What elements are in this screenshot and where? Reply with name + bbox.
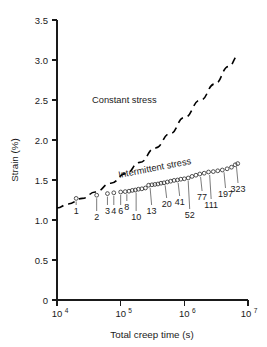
data-point-marker <box>220 168 224 172</box>
y-tick-label-3p5: 3.5 <box>35 15 48 26</box>
data-point-marker <box>207 170 211 174</box>
y-axis-ticks <box>52 20 57 300</box>
x-tick-mantissa-1e4: 10 <box>52 308 63 319</box>
data-point-marker <box>202 171 206 175</box>
constant-stress-curve <box>57 56 238 208</box>
intermittent-stress-label: Intermittent stress <box>117 156 192 180</box>
x-tick-label-1e7: 10 7 <box>241 307 258 320</box>
y-tick-label-0p5: 0.5 <box>35 255 48 266</box>
x-tick-exponent-1e6: 6 <box>192 307 196 314</box>
data-point-marker <box>211 170 215 174</box>
data-point-marker <box>225 167 229 171</box>
annotation-leader-line <box>201 177 203 191</box>
data-point-marker <box>194 173 198 177</box>
y-tick-label-2p0: 2.0 <box>35 135 48 146</box>
x-tick-mantissa-1e6: 10 <box>179 308 190 319</box>
constant-stress-label: Constant stress <box>92 95 157 105</box>
data-point-marker <box>216 169 220 173</box>
data-point-marker <box>144 186 148 190</box>
annotation-leader-line <box>210 175 212 199</box>
point-annotation-8: 8 <box>124 202 129 212</box>
y-tick-label-0: 0 <box>43 295 48 306</box>
point-annotation-52: 52 <box>185 210 195 220</box>
data-point-marker <box>186 176 190 180</box>
point-annotation-1: 1 <box>74 206 79 216</box>
chart-canvas: 0 0.5 1.0 1.5 2.0 2.5 3.0 3.5 10 4 10 5 <box>0 0 267 347</box>
data-point-marker <box>95 193 99 197</box>
data-point-marker <box>123 190 127 194</box>
annotation-leader-line <box>224 172 226 188</box>
x-tick-exponent-1e5: 5 <box>128 307 132 314</box>
point-annotation-13: 13 <box>147 206 157 216</box>
point-annotation-20: 20 <box>162 199 172 209</box>
point-annotation-41: 41 <box>175 197 185 207</box>
point-annotation-3: 3 <box>105 206 110 216</box>
data-point-marker <box>190 175 194 179</box>
y-tick-label-1p5: 1.5 <box>35 175 48 186</box>
x-axis-title: Total creep time (s) <box>110 329 193 340</box>
y-tick-label-1p0: 1.0 <box>35 215 48 226</box>
point-annotation-labels: 123468101320415277111197323 <box>74 184 246 222</box>
y-axis-title: Strain (%) <box>9 138 20 182</box>
x-tick-mantissa-1e7: 10 <box>241 308 252 319</box>
y-tick-label-3p0: 3.0 <box>35 55 48 66</box>
annotation-leader-line <box>188 181 190 209</box>
point-annotation-111: 111 <box>204 200 218 210</box>
annotation-leader-line <box>165 185 167 198</box>
point-annotation-10: 10 <box>131 212 141 222</box>
y-axis-tick-labels: 0 0.5 1.0 1.5 2.0 2.5 3.0 3.5 <box>35 15 48 306</box>
x-tick-label-1e4: 10 4 <box>52 307 69 320</box>
data-point-marker <box>198 172 202 176</box>
point-annotation-6: 6 <box>118 206 123 216</box>
point-annotation-2: 2 <box>94 212 99 222</box>
creep-strain-chart-figure: 0 0.5 1.0 1.5 2.0 2.5 3.0 3.5 10 4 10 5 <box>0 0 267 347</box>
data-point-marker <box>106 192 110 196</box>
data-point-marker <box>74 197 78 201</box>
y-tick-label-2p5: 2.5 <box>35 95 48 106</box>
annotation-leader-line <box>237 167 239 183</box>
data-point-marker <box>119 190 123 194</box>
x-tick-exponent-1e7: 7 <box>254 307 258 314</box>
data-point-marker <box>112 191 116 195</box>
x-tick-label-1e6: 10 6 <box>179 307 196 320</box>
annotation-leader-line <box>150 188 152 205</box>
x-axis-ticks <box>57 300 248 306</box>
x-axis-tick-labels: 10 4 10 5 10 6 10 7 <box>52 307 258 320</box>
x-tick-label-1e5: 10 5 <box>115 307 132 320</box>
x-tick-mantissa-1e5: 10 <box>115 308 126 319</box>
annotation-leader-line <box>178 183 180 196</box>
point-annotation-323: 323 <box>230 184 245 194</box>
x-tick-exponent-1e4: 4 <box>65 307 69 314</box>
point-annotation-4: 4 <box>111 206 116 216</box>
data-point-marker <box>230 165 234 169</box>
